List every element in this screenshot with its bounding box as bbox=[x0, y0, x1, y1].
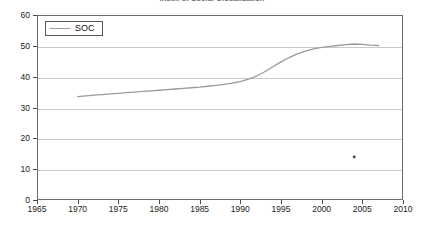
x-tick-label-1985: 1985 bbox=[183, 205, 217, 214]
gridline-50 bbox=[38, 47, 402, 48]
legend[interactable]: SOC bbox=[45, 21, 103, 36]
chart-title: Index of Social Globalization bbox=[0, 0, 424, 3]
y-tick-label-60: 60 bbox=[4, 11, 30, 20]
x-tick-label-1970: 1970 bbox=[61, 205, 95, 214]
x-tick-label-2000: 2000 bbox=[305, 205, 339, 214]
y-tick-label-20: 20 bbox=[4, 134, 30, 143]
x-tick-label-1980: 1980 bbox=[142, 205, 176, 214]
plot-area bbox=[37, 15, 403, 200]
gridline-20 bbox=[38, 139, 402, 140]
y-tick-mark-50 bbox=[33, 46, 37, 47]
y-tick-mark-20 bbox=[33, 138, 37, 139]
x-tick-label-1990: 1990 bbox=[223, 205, 257, 214]
x-tick-label-1975: 1975 bbox=[101, 205, 135, 214]
x-tick-label-1995: 1995 bbox=[264, 205, 298, 214]
y-tick-mark-60 bbox=[33, 15, 37, 16]
x-tick-label-2010: 2010 bbox=[386, 205, 420, 214]
x-tick-label-1965: 1965 bbox=[20, 205, 54, 214]
gridline-40 bbox=[38, 78, 402, 79]
x-tick-label-2005: 2005 bbox=[345, 205, 379, 214]
y-tick-mark-30 bbox=[33, 108, 37, 109]
gridline-30 bbox=[38, 109, 402, 110]
legend-line-swatch-soc bbox=[50, 28, 70, 29]
y-tick-label-30: 30 bbox=[4, 104, 30, 113]
y-tick-mark-40 bbox=[33, 77, 37, 78]
y-tick-label-50: 50 bbox=[4, 42, 30, 51]
gridline-10 bbox=[38, 170, 402, 171]
y-tick-mark-10 bbox=[33, 169, 37, 170]
chart-container: Index of Social Globalization 6050403020… bbox=[0, 0, 424, 227]
y-tick-label-40: 40 bbox=[4, 73, 30, 82]
y-tick-label-10: 10 bbox=[4, 165, 30, 174]
y-tick-label-0: 0 bbox=[4, 196, 30, 205]
legend-label-soc: SOC bbox=[75, 24, 95, 33]
